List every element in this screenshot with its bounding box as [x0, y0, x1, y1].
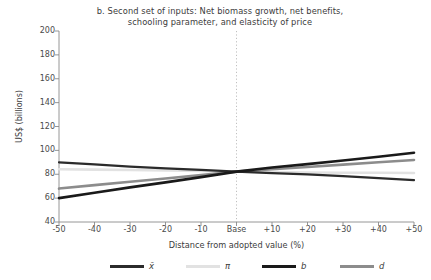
legend-swatch-b: [262, 265, 296, 268]
chart-figure: b. Second set of inputs: Net biomass gro…: [0, 0, 431, 280]
legend-item-pi[interactable]: π: [186, 258, 230, 274]
legend-item-b[interactable]: b: [262, 258, 306, 274]
legend-swatch-d: [340, 265, 374, 268]
legend-label-d: d: [379, 262, 384, 271]
legend-swatch-x-bar: [110, 265, 144, 268]
legend-label-pi: π: [225, 262, 230, 271]
legend-label-x-bar: x̄: [149, 262, 154, 271]
legend-item-d[interactable]: d: [340, 258, 384, 274]
legend-label-b: b: [301, 262, 306, 271]
plot-canvas: [0, 0, 431, 280]
legend-item-x-bar[interactable]: x̄: [110, 258, 154, 274]
legend-swatch-pi: [186, 265, 220, 268]
chart-legend: x̄πbd: [0, 258, 431, 276]
